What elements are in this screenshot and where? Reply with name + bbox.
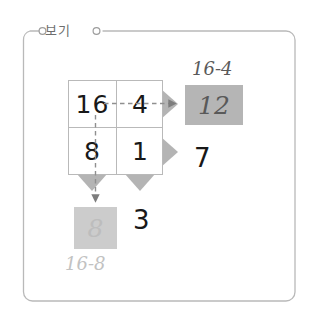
result-box-bottom: 8: [74, 207, 117, 249]
expression-label-bottom: 16-8: [65, 253, 105, 274]
grid-cell-bottom-right: 1: [117, 128, 164, 174]
expression-label-top: 16-4: [192, 58, 232, 79]
loose-number-right: 7: [194, 143, 211, 173]
frame-label: 보기: [45, 20, 70, 39]
loose-number-bottom: 3: [133, 205, 150, 235]
grid-cell-top-left: 16: [69, 81, 116, 127]
grid-cell-top-right: 4: [117, 81, 164, 127]
circle-icon: [93, 28, 100, 35]
worksheet-canvas: 보기 16 4 8 1 16-4 12 8 16-8 7 3: [0, 0, 318, 320]
result-box-top: 12: [185, 85, 243, 125]
grid-cell-bottom-left: 8: [69, 128, 116, 174]
subtraction-grid: 16 4 8 1: [68, 80, 163, 175]
